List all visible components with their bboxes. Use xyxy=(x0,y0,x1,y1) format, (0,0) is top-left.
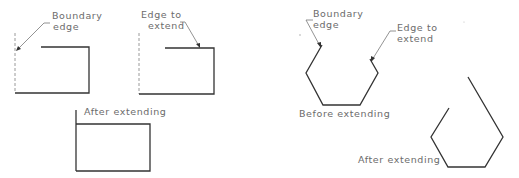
boundary-label-line1: Boundary xyxy=(52,11,103,21)
arrowhead-icon xyxy=(371,56,375,62)
hex-edge-label-line2: extend xyxy=(397,34,434,44)
open-rectangle xyxy=(139,48,214,94)
arrowhead-icon xyxy=(317,42,321,48)
rect-before-boundary xyxy=(15,23,89,93)
boundary-label-line2: edge xyxy=(53,22,79,32)
rect-after-extending xyxy=(76,110,150,171)
stray-dot xyxy=(299,34,300,35)
edge-label-line1: Edge to xyxy=(141,10,182,20)
extended-hexagon xyxy=(431,77,503,167)
closed-rectangle xyxy=(76,124,150,171)
boundary-leader-line xyxy=(17,23,50,50)
arrowhead-icon xyxy=(196,43,200,48)
edge-leader-line xyxy=(372,31,396,60)
hex-boundary-label-line1: Boundary xyxy=(313,9,364,19)
after-extending-label: After extending xyxy=(84,107,166,117)
hexagon-before-extending xyxy=(306,20,396,105)
hex-edge-label-line1: Edge to xyxy=(397,23,438,33)
edge-label-line2: extend xyxy=(148,21,185,31)
stray-dot xyxy=(463,21,464,22)
rect-before-edge xyxy=(139,22,214,94)
before-extending-caption: Before extending xyxy=(299,109,390,119)
hex-after-extending-caption: After extending xyxy=(358,155,440,165)
open-rectangle xyxy=(15,47,89,93)
open-hexagon xyxy=(306,45,378,105)
hex-boundary-label-line2: edge xyxy=(313,20,339,30)
hexagon-after-extending xyxy=(431,77,503,167)
